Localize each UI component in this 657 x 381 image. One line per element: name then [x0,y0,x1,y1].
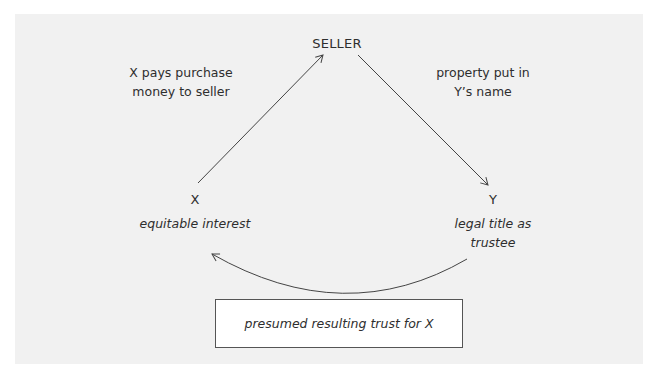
node-y: Y [478,190,508,209]
node-seller: SELLER [307,34,367,53]
node-y-note-line2: trustee [440,233,546,252]
node-x: X [180,190,210,209]
result-label: presumed resulting trust for X [245,316,434,331]
edge-label-x-to-seller: X pays purchase money to seller [118,63,244,101]
edge-label-seller-to-y-line1: property put in [423,63,543,82]
node-y-note: legal title as trustee [440,214,546,252]
edge-label-seller-to-y-line2: Y’s name [423,82,543,101]
node-y-note-line1: legal title as [440,214,546,233]
arrow-y-to-x-curved [212,254,467,293]
edge-label-x-to-seller-line1: X pays purchase [118,63,244,82]
edge-label-x-to-seller-line2: money to seller [118,82,244,101]
edge-label-seller-to-y: property put in Y’s name [423,63,543,101]
result-box: presumed resulting trust for X [215,299,463,348]
node-x-note: equitable interest [135,214,255,233]
